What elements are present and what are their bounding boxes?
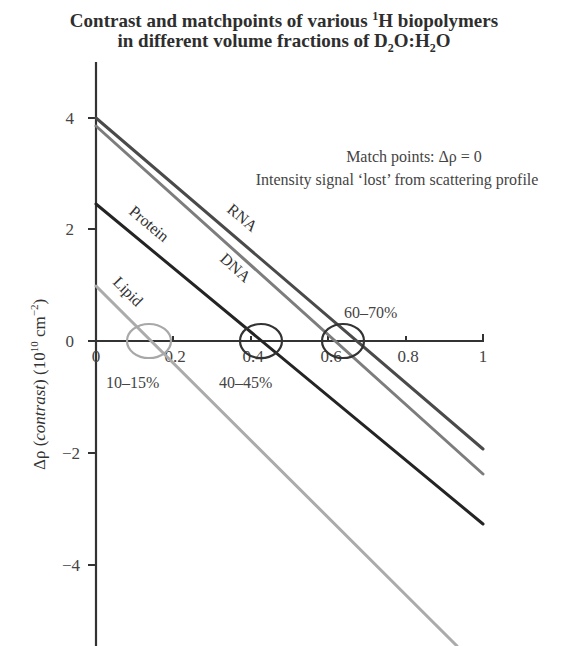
label-protein: Protein — [126, 202, 172, 245]
y-tick-2: 2 — [66, 220, 75, 239]
y-tick-0: 0 — [66, 332, 75, 351]
annotation-pct-protein: 40–45% — [219, 374, 272, 391]
annotation-pct-lipid: 10–15% — [106, 374, 159, 391]
y-tick-neg4: −4 — [62, 556, 81, 575]
series-line-protein — [96, 204, 483, 524]
label-dna: DNA — [217, 250, 254, 286]
annotation-match-points: Match points: Δρ = 0 — [346, 148, 482, 166]
x-tick-1: 1 — [479, 347, 488, 366]
y-tick-neg2: −2 — [62, 444, 80, 463]
x-tick-0.8: 0.8 — [397, 347, 418, 366]
y-tick-4: 4 — [66, 109, 75, 128]
chart-canvas: 4 2 0 −2 −4 0 0.2 0.4 0.6 0.8 1 RNA DNA … — [0, 0, 568, 646]
y-axis-label: Δρ (contrast) (1010 cm−2) — [28, 299, 49, 470]
annotation-pct-nucleic: 60–70% — [344, 304, 397, 321]
series-line-rna — [96, 118, 483, 449]
x-tick-0.6: 0.6 — [320, 347, 341, 366]
label-rna: RNA — [224, 200, 261, 235]
x-tick-0: 0 — [92, 347, 101, 366]
annotation-intensity: Intensity signal ‘lost’ from scattering … — [256, 171, 539, 189]
